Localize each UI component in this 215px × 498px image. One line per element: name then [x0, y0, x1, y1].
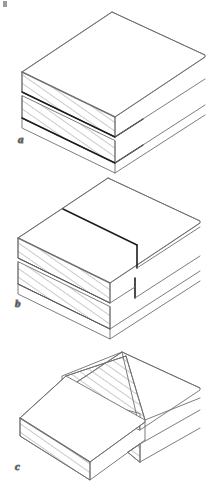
panel-a-right-edge-3 [115, 115, 205, 173]
scan-artifact [3, 1, 7, 7]
panel-a-drawing: a [18, 12, 205, 173]
panel-b-right-edge-3 [110, 281, 200, 339]
panel-b-drawing: b [15, 178, 200, 339]
panel-c-drawing: c [15, 352, 200, 480]
figure-root: a [0, 0, 215, 498]
panel-a-right-edge-2 [115, 105, 205, 163]
panel-b-label: b [15, 297, 21, 309]
panel-a-label: a [18, 133, 24, 145]
panel-c-label: c [15, 460, 20, 472]
panel-b-right-edge-2 [110, 271, 200, 329]
joint-sequence-illustration: a [0, 0, 215, 498]
panel-c-right-edge-3 [140, 428, 200, 462]
panel-b-kerf-1-run [110, 287, 135, 303]
